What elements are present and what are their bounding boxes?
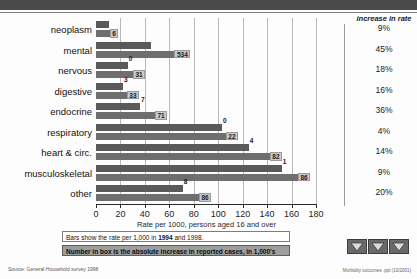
value-label-small: 0 [129, 55, 133, 63]
x-tick-label: 120 [235, 209, 250, 219]
x-tick-label: 60 [164, 209, 174, 219]
x-tick-label: 160 [284, 209, 299, 219]
note-box-legend: Number in box is the absolute increase i… [62, 245, 290, 256]
right-column-divider [344, 24, 345, 206]
category-label-endocrine: endocrine [0, 106, 92, 117]
note1-mid: and [173, 234, 187, 241]
x-tick-label: 20 [115, 209, 125, 219]
bar-1998 [96, 92, 128, 99]
category-label-heart-circ: heart & circ. [0, 147, 92, 158]
increase-in-rate-value: 18% [352, 64, 416, 74]
value-box: 534 [174, 50, 190, 59]
bar-1994 [96, 42, 151, 49]
increase-in-rate-value: 14% [352, 146, 416, 156]
increase-in-rate-value: 45% [352, 44, 416, 54]
value-label-small: 4 [250, 137, 254, 145]
value-box: 86 [199, 193, 211, 202]
note1-year-1998: 1998 [187, 234, 201, 241]
bar-1998 [96, 30, 111, 37]
file-footer: Morbidity outcomes .ppt (10/2001) [343, 268, 411, 273]
x-tick-label: 100 [211, 209, 226, 219]
value-label-small: 8 [184, 178, 188, 186]
value-label-small: 1 [283, 158, 287, 166]
value-box: 71 [155, 111, 167, 120]
x-tick-label: 180 [308, 209, 323, 219]
value-box: 22 [226, 132, 238, 141]
bar-1998 [96, 153, 271, 160]
note1-suffix: . [202, 234, 204, 241]
category-label-digestive: digestive [0, 86, 92, 97]
value-box: 82 [270, 152, 282, 161]
nav-down-button[interactable] [368, 239, 388, 254]
value-box: 6 [110, 29, 119, 38]
category-label-respiratory: respiratory [0, 127, 92, 138]
increase-in-rate-value: 16% [352, 85, 416, 95]
bar-1994 [96, 21, 109, 28]
category-label-nervous: nervous [0, 65, 92, 76]
category-label-other: other [0, 188, 92, 199]
navigation-buttons [347, 239, 409, 254]
triangle-down-icon [371, 242, 385, 252]
bar-1994 [96, 103, 140, 110]
increase-in-rate-value: 9% [352, 23, 416, 33]
value-box: 33 [127, 91, 139, 100]
value-box: 86 [298, 173, 310, 182]
bar-1994 [96, 83, 123, 90]
bar-1994 [96, 144, 249, 151]
increase-in-rate-header: increase in rate [352, 14, 416, 23]
triangle-left-icon [350, 242, 364, 252]
note1-year-1994: 1994 [158, 234, 172, 241]
bar-1994 [96, 185, 183, 192]
value-label-small: 7 [141, 96, 145, 104]
bar-1998 [96, 133, 227, 140]
note-bars-legend: Bars show the rate per 1,000 in 1994 and… [62, 231, 290, 242]
nav-forward-button[interactable] [389, 239, 409, 254]
increase-in-rate-value: 20% [352, 187, 416, 197]
bar-1994 [96, 124, 222, 131]
triangle-right-icon [392, 242, 406, 252]
source-caption: Source: General Household survey 1998 [8, 266, 98, 272]
top-banner [0, 0, 417, 10]
category-label-neoplasm: neoplasm [0, 24, 92, 35]
x-tick-label: 80 [189, 209, 199, 219]
bar-1998 [96, 51, 175, 58]
x-tick-label: 40 [140, 209, 150, 219]
x-tick-label: 140 [260, 209, 275, 219]
x-tick-label: 0 [93, 209, 98, 219]
bar-1994 [96, 165, 282, 172]
header-divider [0, 12, 417, 13]
increase-in-rate-value: 9% [352, 167, 416, 177]
category-label-musculoskeletal: musculoskeletal [0, 168, 92, 179]
x-axis-title: Rate per 1000, persons aged 16 and over [96, 220, 317, 229]
category-label-mental: mental [0, 45, 92, 56]
value-box: 31 [133, 70, 145, 79]
increase-in-rate-value: 4% [352, 126, 416, 136]
bar-1998 [96, 71, 134, 78]
bar-1998 [96, 174, 299, 181]
increase-in-rate-value: 36% [352, 105, 416, 115]
slide-canvas: 020406080100120140160180 Rate per 1000, … [0, 0, 417, 279]
note1-prefix: Bars show the rate per 1,000 in [66, 234, 158, 241]
value-label-small: 3 [124, 76, 128, 84]
bar-1998 [96, 194, 200, 201]
nav-back-button[interactable] [347, 239, 367, 254]
bar-1994 [96, 62, 128, 69]
value-label-small: 0 [223, 117, 227, 125]
bar-1998 [96, 112, 156, 119]
